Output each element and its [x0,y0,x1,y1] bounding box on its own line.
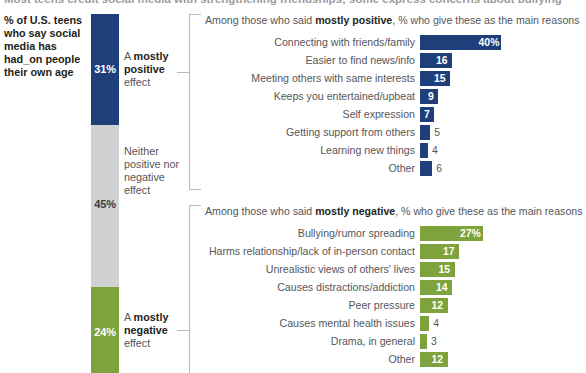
bar-row-label: Drama, in general [201,335,420,347]
bar-row: Unrealistic views of others' lives15 [201,260,586,278]
stack-segment-neither: 45% [91,125,119,287]
bar-row: Other6 [201,159,586,177]
bar-track: 15 [420,262,586,277]
stack-segment-negative: 24% [91,287,119,373]
bar-value-label: 40% [479,36,500,49]
bar-fill [420,125,430,140]
bar-row-label: Easier to find news/info [201,54,420,66]
panel-negative-title-bold: mostly negative [315,205,395,217]
bar-row: Drama, in general3 [201,332,586,350]
bar-track: 40% [420,35,586,50]
stack-label-negative-prefix: A [124,311,134,323]
bar-fill [420,161,432,176]
stack-label-positive: A mostly positive effect [124,50,184,89]
bar-row-label: Causes distractions/addiction [201,281,420,293]
bar-row: Keeps you entertained/upbeat9 [201,87,586,105]
panel-negative-reasons: Among those who said mostly negative, % … [201,205,586,368]
bar-row-label: Keeps you entertained/upbeat [201,90,420,102]
bar-track: 15 [420,71,586,86]
bar-track: 27% [420,226,586,241]
panel-negative-title-post: , % who give these as the main reasons [395,205,582,217]
bar-row-label: Causes mental health issues [201,317,420,329]
stacked-column-chart: 31% 45% 24% [91,14,119,373]
connector-tick-positive [177,72,190,73]
bar-value-label: 12 [431,353,443,366]
stack-label-positive-prefix: A [124,50,134,62]
stack-segment-negative-pct: 24% [91,326,119,338]
bar-row: Peer pressure12 [201,296,586,314]
panel-positive-title-post: , % who give these as the main reasons [392,14,579,26]
stack-segment-neither-pct: 45% [91,198,119,210]
bar-value-label: 6 [436,162,442,175]
bar-row: Other12 [201,350,586,368]
bar-value-label: 3 [431,335,437,348]
negative-bar-rows: Bullying/rumor spreading27%Harms relatio… [201,224,586,368]
infographic-figure: Most teens credit social media with stre… [0,0,586,373]
bar-track: 3 [420,334,586,349]
panel-positive-title-bold: mostly positive [315,14,392,26]
bar-row: Meeting others with same interests15 [201,69,586,87]
bar-value-label: 17 [443,245,455,258]
bar-row: Connecting with friends/family40% [201,33,586,51]
headline: Most teens credit social media with stre… [4,0,564,5]
bar-track: 4 [420,143,586,158]
bar-track: 16 [420,53,586,68]
bar-row-label: Peer pressure [201,299,420,311]
panel-positive-title-pre: Among those who said [205,14,315,26]
bar-track: 17 [420,244,586,259]
stack-label-positive-suffix: effect [124,76,150,88]
connector-tick-negative [177,330,190,331]
bar-value-label: 15 [434,72,446,85]
stack-label-negative: A mostly negative effect [124,311,184,350]
connector-bracket-positive [189,14,201,190]
bar-row-label: Self expression [201,108,420,120]
panel-positive-reasons: Among those who said mostly positive, % … [201,14,586,177]
bar-row-label: Meeting others with same interests [201,72,420,84]
bar-track: 7 [420,107,586,122]
stack-segment-positive: 31% [91,14,119,125]
bar-value-label: 16 [436,54,448,67]
bar-fill [420,316,429,331]
bar-row-label: Unrealistic views of others' lives [201,263,420,275]
bar-row-label: Bullying/rumor spreading [201,227,420,239]
question-text: % of U.S. teens who say social media has… [4,14,84,79]
bar-value-label: 4 [433,317,439,330]
bar-row: Bullying/rumor spreading27% [201,224,586,242]
bar-track: 9 [420,89,586,104]
bar-row: Getting support from others5 [201,123,586,141]
bar-row: Learning new things4 [201,141,586,159]
bar-row: Easier to find news/info16 [201,51,586,69]
bar-row-label: Harms relationship/lack of in-person con… [201,245,420,257]
bar-value-label: 12 [431,299,443,312]
bar-row-label: Learning new things [201,144,420,156]
panel-negative-title: Among those who said mostly negative, % … [205,205,586,217]
bar-track: 14 [420,280,586,295]
stack-label-negative-suffix: effect [124,337,150,349]
stack-label-neither: Neither positive nor negative effect [124,145,184,197]
bar-track: 5 [420,125,586,140]
bar-track: 4 [420,316,586,331]
bar-value-label: 4 [432,144,438,157]
bar-value-label: 14 [436,281,448,294]
bar-value-label: 5 [434,126,440,139]
bar-value-label: 7 [424,108,430,121]
panel-negative-title-pre: Among those who said [205,205,315,217]
bar-row-label: Other [201,162,420,174]
bar-row: Causes mental health issues4 [201,314,586,332]
bar-row: Self expression7 [201,105,586,123]
bar-row-label: Other [201,353,420,365]
panel-positive-title: Among those who said mostly positive, % … [205,14,586,26]
positive-bar-rows: Connecting with friends/family40%Easier … [201,33,586,177]
bar-value-label: 9 [428,90,434,103]
bar-track: 6 [420,161,586,176]
stack-label-neither-text: Neither positive nor negative effect [124,145,179,196]
bar-fill [420,334,427,349]
bar-value-label: 15 [438,263,450,276]
stack-segment-positive-pct: 31% [91,63,119,75]
bar-row: Harms relationship/lack of in-person con… [201,242,586,260]
bar-track: 12 [420,352,586,367]
bar-track: 12 [420,298,586,313]
bar-value-label: 27% [460,227,481,240]
connector-bracket-negative [189,205,201,373]
bar-row: Causes distractions/addiction14 [201,278,586,296]
